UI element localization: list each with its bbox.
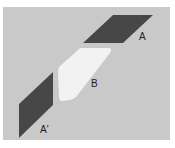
label-a-prime: A' <box>40 124 49 135</box>
label-b: B <box>91 78 98 89</box>
diagram-canvas: A B A' <box>0 0 175 148</box>
label-a: A <box>139 31 146 42</box>
